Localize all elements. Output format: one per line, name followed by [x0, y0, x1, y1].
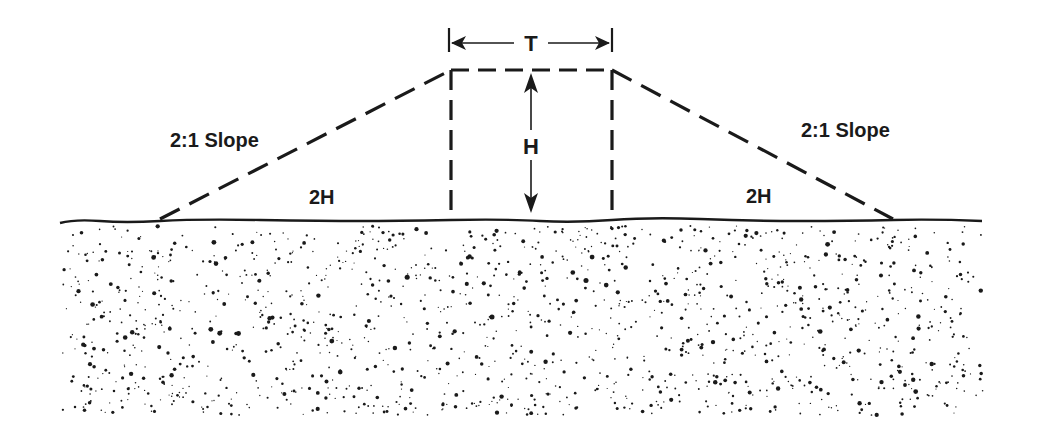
right-run-label: 2H: [746, 185, 772, 207]
height-label: H: [523, 134, 539, 159]
soil-stipple: [62, 224, 984, 417]
left-run-label: 2H: [309, 186, 335, 208]
ground-line: [60, 218, 982, 223]
embankment-diagram: T H 2:1 Slope 2:1 Slope 2H 2H: [0, 0, 1039, 437]
right-slope-label: 2:1 Slope: [801, 119, 890, 141]
height-dimension: H: [523, 73, 539, 213]
top-width-dimension: T: [449, 28, 612, 56]
top-width-label: T: [524, 31, 538, 56]
left-slope-label: 2:1 Slope: [170, 129, 259, 151]
